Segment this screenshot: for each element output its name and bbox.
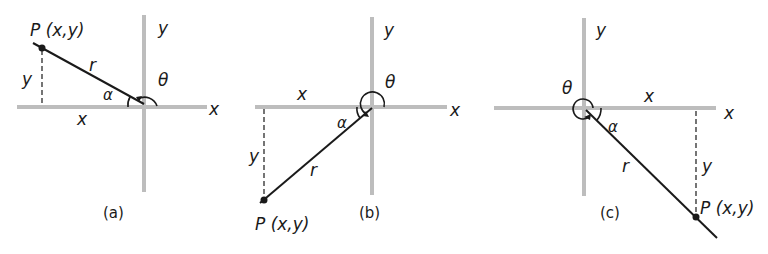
alpha-label: α — [337, 114, 347, 132]
x-axis-label: x — [208, 99, 220, 119]
panel-caption: (a) — [103, 204, 124, 222]
y-axis-label: y — [595, 20, 607, 40]
theta-label: θ — [158, 70, 169, 90]
segment-x-label: x — [643, 86, 655, 106]
point-label: P (x,y) — [30, 20, 84, 40]
panel-caption: (b) — [359, 204, 380, 222]
segment-x-label: x — [76, 109, 88, 129]
radius-label: r — [89, 55, 97, 75]
theta-label: θ — [385, 72, 396, 92]
y-axis-label: y — [383, 20, 395, 40]
alpha-label: α — [608, 118, 618, 136]
y-axis-label: y — [157, 18, 169, 38]
point-p — [261, 197, 268, 204]
segment-y-label: y — [21, 69, 33, 89]
figure-canvas: P (x,y) y x r α θ y x (a) P (x,y) y x r … — [0, 0, 768, 254]
radius-line — [260, 108, 372, 203]
point-label: P (x,y) — [255, 214, 309, 234]
panel-c: P (x,y) y x r α θ y x (c) — [494, 18, 754, 238]
radius-label: r — [622, 156, 630, 176]
segment-x-label: x — [296, 84, 308, 104]
segment-y-label: y — [701, 156, 713, 176]
x-axis-label: x — [449, 100, 461, 120]
point-p — [693, 214, 700, 221]
panel-a: P (x,y) y x r α θ y x (a) — [17, 15, 220, 222]
radius-label: r — [310, 160, 318, 180]
alpha-label: α — [103, 86, 113, 104]
point-label: P (x,y) — [700, 198, 754, 218]
x-axis-label: x — [723, 103, 735, 123]
panel-caption: (c) — [600, 204, 620, 222]
point-p — [39, 45, 46, 52]
segment-y-label: y — [248, 146, 260, 166]
theta-label: θ — [562, 78, 573, 98]
panel-b: P (x,y) y x r α θ y x (b) — [248, 17, 461, 234]
